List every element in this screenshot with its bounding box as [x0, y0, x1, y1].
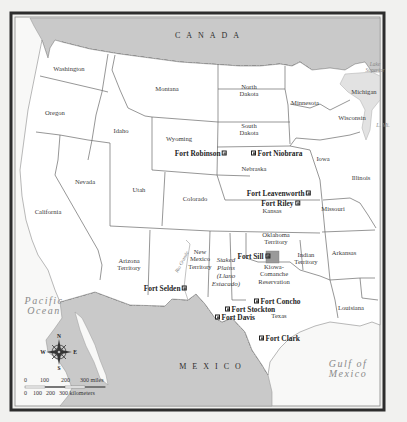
- compass-north: N: [57, 333, 61, 339]
- scale-km-0: 0: [24, 390, 27, 396]
- compass-south: S: [57, 365, 60, 371]
- country-label-mexico: MEXICO: [179, 362, 247, 371]
- state-label-oklahoma-territory: Oklahoma Territory: [262, 231, 289, 246]
- fort-label: Fort Davis: [222, 313, 255, 322]
- state-label-missouri: Missouri: [321, 205, 344, 212]
- fort-icon: [215, 315, 220, 320]
- state-label-washington: Washington: [53, 65, 84, 72]
- scale-bar-graphic: [25, 386, 106, 388]
- state-label-iowa: Iowa: [316, 155, 329, 162]
- state-label-idaho: Idaho: [113, 127, 128, 134]
- fort-marker-fort-leavenworth: Fort Leavenworth: [247, 189, 311, 198]
- scale-miles-0: 0: [24, 377, 27, 383]
- state-label-south-dakota: South Dakota: [239, 122, 258, 137]
- state-label-illinois: Illinois: [352, 174, 371, 181]
- fort-marker-fort-selden: Fort Selden: [144, 284, 187, 293]
- state-label-arizona-territory: Arizona Territory: [117, 257, 140, 272]
- water-label-pacific-ocean: Pacific Ocean: [25, 296, 64, 316]
- fort-label: Fort Sill: [237, 252, 263, 261]
- state-label-wisconsin: Wisconsin: [338, 114, 366, 121]
- state-label-utah: Utah: [133, 186, 146, 193]
- fort-label: Fort Niobrara: [258, 149, 303, 158]
- state-label-louisiana: Louisiana: [338, 304, 364, 311]
- state-label-indian-territory: Indian Territory: [294, 251, 317, 266]
- fort-marker-fort-clark: Fort Clark: [259, 334, 300, 343]
- state-label-wyoming: Wyoming: [166, 135, 192, 142]
- fort-marker-fort-davis: Fort Davis: [215, 313, 255, 322]
- fort-icon: [222, 151, 227, 156]
- fort-icon: [251, 151, 256, 156]
- scale-miles-300: 300 miles: [80, 377, 104, 383]
- fort-marker-fort-sill: Fort Sill: [237, 252, 270, 261]
- scale-km-300: 300 kilometers: [59, 390, 95, 396]
- fort-icon: [225, 307, 230, 312]
- compass-west: W: [40, 349, 46, 355]
- state-label-colorado: Colorado: [183, 195, 208, 202]
- fort-label: Fort Clark: [266, 334, 300, 343]
- fort-icon: [254, 299, 259, 304]
- state-label-north-dakota: North Dakota: [239, 83, 258, 98]
- fort-icon: [259, 336, 264, 341]
- state-label-kansas: Kansas: [262, 207, 281, 214]
- region-label-staked-plains: Staked Plains (Llano Estacado): [212, 256, 240, 288]
- compass-east: E: [73, 349, 77, 355]
- fort-icon: [182, 286, 187, 291]
- state-label-kiowa-comanche-reservation: Kiowa- Comanche Reservation: [258, 263, 290, 285]
- state-label-arkansas: Arkansas: [332, 249, 357, 256]
- map-canvas: CANADAMEXICOPacific OceanGulf of MexicoL…: [0, 0, 407, 422]
- fort-icon: [295, 201, 300, 206]
- fort-marker-fort-riley: Fort Riley: [261, 199, 300, 208]
- state-label-california: California: [35, 208, 62, 215]
- fort-icon: [265, 254, 270, 259]
- country-label-canada: CANADA: [175, 31, 245, 40]
- fort-marker-fort-niobrara: Fort Niobrara: [251, 149, 302, 158]
- state-label-nevada: Nevada: [75, 178, 95, 185]
- fort-label: Fort Robinson: [175, 149, 221, 158]
- state-label-oregon: Oregon: [45, 109, 65, 116]
- fort-label: Fort Riley: [261, 199, 293, 208]
- fort-label: Fort Selden: [144, 284, 181, 293]
- state-label-minnesota: Minnesota: [291, 99, 319, 106]
- water-label-gulf-of-mexico: Gulf of Mexico: [329, 359, 368, 379]
- scale-km-200: 200: [46, 390, 55, 396]
- state-label-michigan: Michigan: [351, 88, 376, 95]
- fort-label: Fort Leavenworth: [247, 189, 305, 198]
- scale-miles-200: 200: [61, 377, 70, 383]
- fort-icon: [306, 191, 311, 196]
- scale-miles-100: 100: [40, 377, 49, 383]
- water-label-lake-superior: Lake Superior: [365, 61, 384, 73]
- state-label-montana: Montana: [155, 85, 178, 92]
- scale-km-100: 100: [33, 390, 42, 396]
- water-label-lake-michigan: L. Mi.: [376, 122, 389, 128]
- state-label-nebraska: Nebraska: [242, 165, 267, 172]
- fort-marker-fort-robinson: Fort Robinson: [175, 149, 227, 158]
- state-label-new-mexico-territory: New Mexico Territory: [188, 248, 211, 270]
